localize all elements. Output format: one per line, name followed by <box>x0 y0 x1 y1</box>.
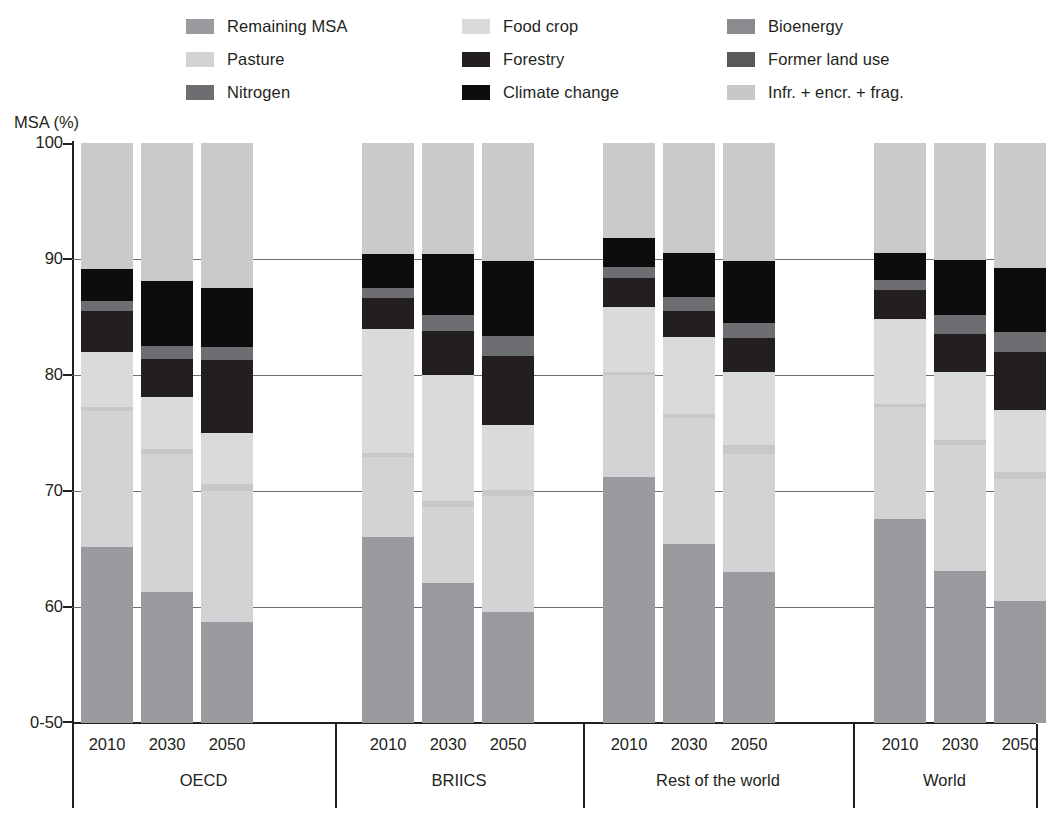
bar-segment-food_crop <box>663 337 715 415</box>
legend-swatch-remaining_msa <box>186 19 214 34</box>
x-group-separator <box>1036 724 1038 808</box>
legend-label-infr_encr_frag: Infr. + encr. + frag. <box>768 84 904 101</box>
bar-segment-pasture <box>994 479 1046 601</box>
bar-segment-pasture <box>482 496 534 612</box>
bar-segment-climate_change <box>603 238 655 267</box>
bar-segment-nitrogen <box>934 315 986 335</box>
legend-item-nitrogen: Nitrogen <box>186 83 290 101</box>
bar-segment-food_crop <box>141 397 193 449</box>
legend-swatch-forestry <box>462 52 490 67</box>
bar-segment-nitrogen <box>201 347 253 360</box>
bar-segment-nitrogen <box>723 323 775 338</box>
bar-segment-pasture_top <box>874 143 926 253</box>
bar-segment-infr_encr_frag <box>723 445 775 454</box>
bar-segment-nitrogen <box>603 267 655 277</box>
bar-segment-infr_encr_frag <box>482 490 534 496</box>
bar-briics-2030 <box>422 143 474 723</box>
bar-segment-pasture_top <box>994 143 1046 268</box>
bar-segment-infr_encr_frag <box>874 404 926 407</box>
bar-segment-pasture_top <box>422 143 474 254</box>
bar-segment-nitrogen <box>874 280 926 290</box>
bar-segment-infr_encr_frag <box>422 501 474 507</box>
bar-segment-infr_encr_frag <box>81 407 133 410</box>
bar-segment-pasture <box>422 507 474 582</box>
bar-segment-climate_change <box>934 260 986 315</box>
y-tick-mark <box>63 490 72 492</box>
bar-segment-remaining_msa <box>723 572 775 723</box>
x-group-label: BRIICS <box>309 771 609 790</box>
legend-item-food_crop: Food crop <box>462 17 578 35</box>
bar-segment-pasture_top <box>482 143 534 261</box>
bar-segment-forestry <box>482 356 534 424</box>
bar-segment-pasture_top <box>81 143 133 269</box>
bar-segment-forestry <box>934 334 986 371</box>
bar-segment-pasture <box>603 375 655 477</box>
bar-segment-climate_change <box>362 254 414 288</box>
y-tick-label: 90 <box>45 249 63 268</box>
legend-item-pasture: Pasture <box>186 50 285 68</box>
bar-segment-forestry <box>994 352 1046 410</box>
bar-segment-food_crop <box>723 372 775 445</box>
bar-rest-of-the-world-2030 <box>663 143 715 723</box>
y-tick-label: 70 <box>45 481 63 500</box>
y-tick-label: 60 <box>45 597 63 616</box>
bar-segment-forestry <box>663 311 715 337</box>
bar-segment-food_crop <box>201 433 253 484</box>
legend-swatch-pasture <box>186 52 214 67</box>
bar-segment-forestry <box>723 338 775 372</box>
bar-segment-remaining_msa <box>603 477 655 723</box>
y-tick-label: 80 <box>45 365 63 384</box>
x-group-separator <box>335 724 337 808</box>
x-tick-label-year: 2030 <box>137 735 197 754</box>
bar-segment-nitrogen <box>141 346 193 359</box>
bar-segment-infr_encr_frag <box>362 453 414 458</box>
bar-segment-remaining_msa <box>81 547 133 723</box>
x-tick-label-year: 2050 <box>197 735 257 754</box>
bar-segment-infr_encr_frag <box>603 372 655 375</box>
legend-label-bioenergy: Bioenergy <box>768 18 843 35</box>
x-tick-label-year: 2010 <box>599 735 659 754</box>
bar-oecd-2050 <box>201 143 253 723</box>
x-tick-label-year: 2050 <box>990 735 1050 754</box>
bar-segment-forestry <box>141 359 193 397</box>
bar-segment-remaining_msa <box>422 583 474 723</box>
bar-segment-climate_change <box>482 261 534 335</box>
bar-segment-remaining_msa <box>362 537 414 723</box>
bar-segment-forestry <box>603 278 655 307</box>
bar-segment-nitrogen <box>994 332 1046 352</box>
x-tick-label-year: 2010 <box>870 735 930 754</box>
bar-segment-climate_change <box>81 269 133 300</box>
y-tick-mark <box>63 374 72 376</box>
bar-segment-food_crop <box>422 375 474 501</box>
bar-briics-2010 <box>362 143 414 723</box>
legend-item-former_land_use: Former land use <box>727 50 890 68</box>
bar-segment-remaining_msa <box>874 519 926 723</box>
bar-segment-forestry <box>362 298 414 328</box>
bar-segment-pasture <box>663 418 715 544</box>
bar-segment-remaining_msa <box>482 612 534 723</box>
bar-segment-infr_encr_frag <box>141 449 193 454</box>
bar-segment-infr_encr_frag <box>994 472 1046 479</box>
y-tick-mark <box>63 606 72 608</box>
bar-segment-nitrogen <box>482 336 534 357</box>
x-group-separator <box>72 724 74 808</box>
bar-segment-infr_encr_frag <box>934 440 986 445</box>
bar-segment-food_crop <box>934 372 986 440</box>
bar-segment-forestry <box>422 331 474 375</box>
x-group-separator <box>853 724 855 808</box>
legend-label-forestry: Forestry <box>503 51 564 68</box>
y-axis-labels: 0-5060708090100 <box>0 143 63 725</box>
bar-segment-pasture_top <box>362 143 414 254</box>
bar-segment-pasture <box>81 411 133 547</box>
legend-item-remaining_msa: Remaining MSA <box>186 17 348 35</box>
bar-segment-infr_encr_frag <box>201 484 253 491</box>
bar-briics-2050 <box>482 143 534 723</box>
bar-segment-pasture_top <box>141 143 193 281</box>
bar-segment-pasture <box>934 445 986 571</box>
bar-segment-nitrogen <box>362 288 414 298</box>
legend-label-former_land_use: Former land use <box>768 51 890 68</box>
legend-swatch-food_crop <box>462 19 490 34</box>
bar-segment-pasture_top <box>934 143 986 260</box>
bar-segment-remaining_msa <box>994 601 1046 723</box>
x-group-label: World <box>795 771 1052 790</box>
